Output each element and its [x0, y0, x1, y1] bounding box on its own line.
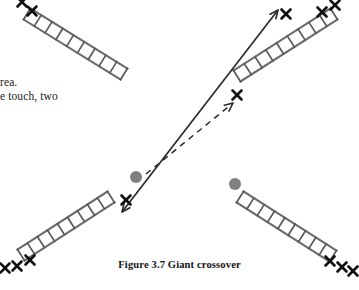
giant-crossover-figure [0, 0, 359, 290]
ladder-bottom-left-rung [57, 224, 64, 235]
ladder-bottom-left-rail-a [17, 192, 107, 250]
ladder-top-right-rail-a [241, 19, 338, 81]
ladder-bottom-right-rung [268, 211, 275, 222]
ladder-bottom-right-rung [288, 224, 295, 235]
ladder-bottom-left-rung [37, 237, 44, 248]
ladder-top-left-rail-a [24, 20, 121, 80]
x-top-right-2 [331, 1, 340, 10]
ladder-bottom-left-rail-b [25, 202, 115, 260]
body-text-line-1: rea. [0, 76, 17, 88]
ladder-bottom-left-rung [97, 198, 104, 209]
ladder-bottom-right-rung [309, 237, 316, 248]
ladder-bottom-right-rung [299, 231, 306, 242]
ladder-bottom-right-rung [319, 244, 326, 255]
x-bottom-left-top [122, 196, 131, 205]
ladder-bottom-left-rung [67, 217, 74, 228]
arrow-solid-crossover [122, 10, 278, 212]
ladder-top-right-rung [255, 57, 262, 68]
ladder-top-right-rung [287, 36, 294, 47]
ladder-top-left [24, 8, 128, 79]
ladder-bottom-left [17, 192, 114, 261]
player-dot-left [130, 171, 142, 183]
figure-caption: Figure 3.7 Giant crossover [0, 259, 359, 270]
x-center-upper [282, 10, 291, 19]
ladder-top-right-rung [233, 71, 240, 82]
arrow-dashed-crossover [146, 103, 233, 174]
ladder-bottom-right-rail-b [243, 192, 336, 251]
figure-page: rea. e touch, two Figure 3.7 Giant cross… [0, 0, 359, 290]
arrow-solid-crossover-shaft [122, 10, 278, 212]
ladder-top-left-rung [110, 62, 117, 73]
ladder-bottom-left-rung [47, 230, 54, 241]
ladder-bottom-left-rung [27, 243, 34, 254]
ladder-bottom-right-rung [247, 198, 254, 209]
ladder-top-left-rung [77, 42, 84, 53]
ladder-top-right-rung [277, 43, 284, 54]
ladder-top-left-rung [34, 15, 41, 26]
ladder-top-right-rung [244, 64, 251, 75]
ladder-bottom-left-rung [107, 192, 114, 203]
ladder-top-left-rung [67, 35, 74, 46]
ladder-bottom-right-rung [257, 205, 264, 216]
ladder-top-left-rung [56, 28, 63, 39]
ladder-bottom-left-rung [77, 211, 84, 222]
x-top-left-1 [18, 0, 27, 7]
ladder-top-right [233, 9, 337, 82]
ladder-top-left-rung [99, 55, 106, 66]
ladder-top-left-rail-b [30, 8, 127, 68]
ladder-bottom-right-rung [278, 218, 285, 229]
x-center-lower [233, 91, 242, 100]
ladder-bottom-right [237, 192, 337, 262]
player-dot-right [229, 178, 241, 190]
arrow-dashed-crossover-shaft [146, 103, 233, 174]
ladder-bottom-right-rung [237, 192, 244, 203]
body-text-line-2: e touch, two [0, 90, 58, 102]
ladder-top-right-rung [309, 22, 316, 33]
ladder-bottom-left-rung [87, 204, 94, 215]
ladder-top-left-rung [121, 68, 128, 79]
ladder-top-right-rung [298, 29, 305, 40]
ladder-bottom-right-rail-a [237, 202, 330, 261]
ladder-top-left-rung [45, 22, 52, 33]
ladder-top-left-rung [88, 48, 95, 59]
ladder-top-right-rung [266, 50, 273, 61]
